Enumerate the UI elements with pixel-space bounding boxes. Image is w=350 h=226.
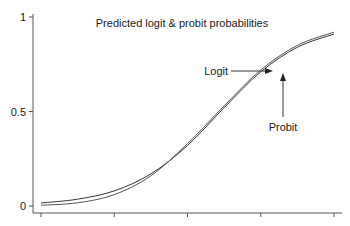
y-tick-label: 1 <box>20 11 26 23</box>
y-tick-label: 0 <box>20 200 26 212</box>
probit-annotation-label: Probit <box>269 121 298 133</box>
chart-title: Predicted logit & probit probabilities <box>96 17 269 29</box>
probit-arrowhead <box>280 73 286 81</box>
annotations: Logit Probit <box>204 65 297 133</box>
y-tick-label: 0.5 <box>11 106 26 118</box>
probit-curve <box>41 32 334 205</box>
logit-curve <box>41 34 334 203</box>
logit-arrowhead <box>265 68 273 74</box>
logit-annotation-label: Logit <box>204 65 228 77</box>
chart: 00.51 Predicted logit & probit probabili… <box>0 0 350 226</box>
axes: 00.51 <box>11 11 342 217</box>
curves <box>41 32 334 205</box>
